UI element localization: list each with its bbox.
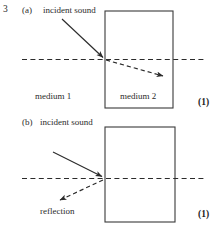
part-label-a: (a) <box>22 5 32 16</box>
refracted-ray-a <box>106 60 163 76</box>
reflected-ray-b <box>60 180 103 200</box>
medium-1-label: medium 1 <box>35 91 71 102</box>
figure-page: 3 (a) incident sound medium 1 medium 2 (… <box>0 0 224 231</box>
reflection-label: reflection <box>40 206 74 217</box>
marks-label-b: (1) <box>198 209 209 219</box>
part-label-b: (b) <box>22 117 33 128</box>
incident-ray-b <box>53 152 102 177</box>
ray-diagram-canvas <box>0 0 224 231</box>
marks-label-a: (1) <box>198 97 209 107</box>
incident-sound-label-a: incident sound <box>43 5 96 16</box>
incident-sound-label-b: incident sound <box>40 117 93 128</box>
incident-ray-a <box>62 19 103 58</box>
medium2-boundary-box-b <box>105 127 175 222</box>
question-number: 3 <box>3 4 8 15</box>
medium-2-label: medium 2 <box>120 91 156 102</box>
